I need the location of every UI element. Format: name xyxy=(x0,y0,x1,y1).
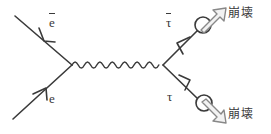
tau-label-text: τ xyxy=(167,89,172,104)
electron-label: e xyxy=(49,92,55,105)
arrowhead-positron-icon xyxy=(39,28,55,42)
tau-label: τ xyxy=(167,90,172,103)
decay-label-bottom: 崩壊 xyxy=(228,108,253,120)
electron-label-text: e xyxy=(49,91,55,106)
antitau-label-text: τ xyxy=(166,16,171,29)
decay-label-top: 崩壊 xyxy=(228,7,253,19)
positron-label: e xyxy=(49,16,55,29)
photon-propagator-wavy-line-icon xyxy=(72,62,159,68)
antitau-label: τ xyxy=(166,16,171,29)
feynman-diagram-figure: e e τ τ 崩壊 崩壊 xyxy=(0,0,271,134)
positron-label-text: e xyxy=(49,16,55,29)
electron-line xyxy=(13,65,72,119)
